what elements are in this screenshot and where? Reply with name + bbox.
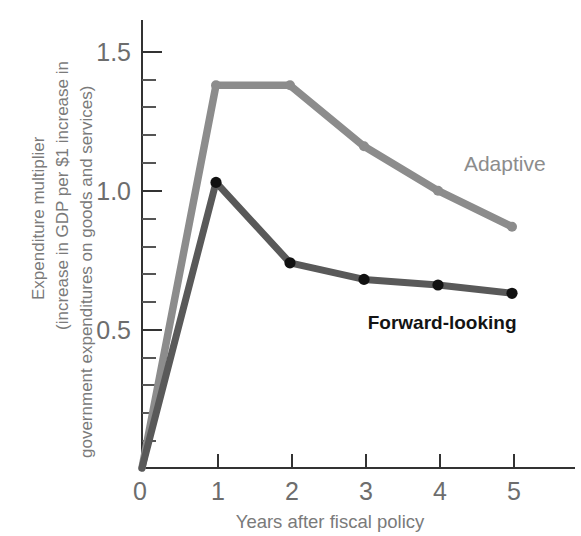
x-axis-title: Years after fiscal policy <box>236 511 425 532</box>
y-tick-label-1-0: 1.0 <box>96 177 131 205</box>
x-tick-label-4: 4 <box>433 477 447 505</box>
y-axis-label-line-3: government expenditures on goods and ser… <box>77 86 96 458</box>
axes <box>142 20 575 468</box>
series-line-adaptive <box>142 85 512 468</box>
data-point <box>210 177 221 188</box>
series-label-forward-looking: Forward-looking <box>368 312 517 333</box>
data-point <box>211 80 221 90</box>
x-axis-tick-labels: 0 1 2 3 4 5 <box>133 477 521 505</box>
data-point <box>507 222 517 232</box>
data-point <box>433 186 443 196</box>
x-tick-label-3: 3 <box>359 477 373 505</box>
y-axis-label-line-2: (increase in GDP per $1 increase in <box>53 61 72 330</box>
data-point <box>284 257 295 268</box>
y-tick-label-0-5: 0.5 <box>96 316 131 344</box>
figure-container: Expenditure multiplier (increase in GDP … <box>0 0 581 536</box>
y-axis-tick-labels: 1.5 1.0 0.5 <box>96 38 131 344</box>
y-axis-major-ticks <box>142 52 162 330</box>
data-point <box>506 288 517 299</box>
data-series-layer <box>142 80 518 468</box>
x-tick-label-5: 5 <box>507 477 521 505</box>
data-point <box>432 279 443 290</box>
y-tick-label-1-5: 1.5 <box>96 38 131 66</box>
series-label-adaptive: Adaptive <box>464 152 546 175</box>
x-tick-label-0: 0 <box>133 477 147 505</box>
data-point <box>285 80 295 90</box>
y-axis-label: Expenditure multiplier (increase in GDP … <box>29 61 96 458</box>
y-axis-label-line-1: Expenditure multiplier <box>29 136 48 300</box>
x-tick-label-1: 1 <box>211 477 225 505</box>
data-point <box>359 141 369 151</box>
expenditure-multiplier-line-chart: Expenditure multiplier (increase in GDP … <box>0 0 581 536</box>
x-tick-label-2: 2 <box>285 477 299 505</box>
data-point <box>358 274 369 285</box>
x-axis-ticks <box>218 454 514 468</box>
